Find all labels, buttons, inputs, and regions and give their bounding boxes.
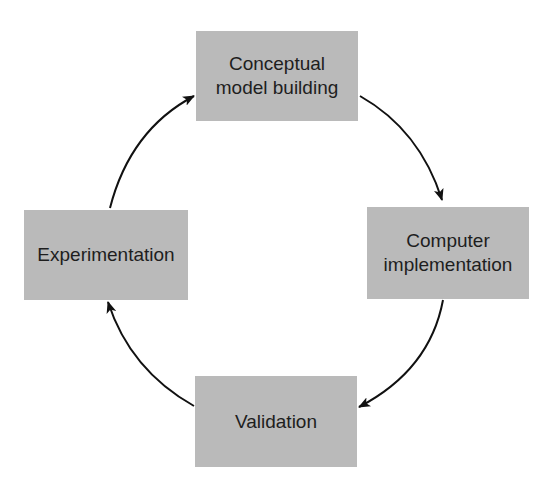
- node-label: Validation: [235, 410, 317, 434]
- arrow-bottom-to-left: [108, 302, 194, 406]
- node-validation: Validation: [195, 376, 357, 467]
- cycle-diagram: Conceptual model building Computer imple…: [0, 0, 546, 485]
- node-label: Computer implementation: [384, 229, 513, 277]
- node-conceptual-model-building: Conceptual model building: [196, 31, 358, 121]
- node-computer-implementation: Computer implementation: [367, 207, 529, 299]
- arrow-top-to-right: [360, 96, 442, 200]
- node-label: Experimentation: [37, 243, 174, 267]
- arrow-right-to-bottom: [359, 300, 443, 407]
- node-experimentation: Experimentation: [24, 210, 188, 300]
- arrow-left-to-top: [110, 96, 194, 208]
- node-label: Conceptual model building: [216, 52, 339, 100]
